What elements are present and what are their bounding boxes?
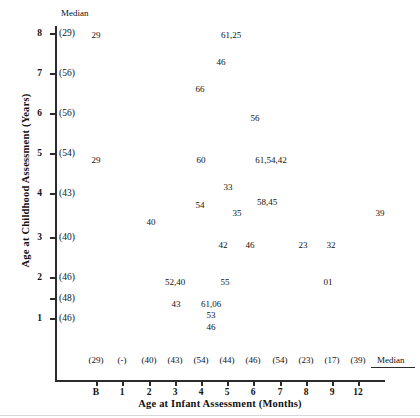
data-point-label: 60 [197,155,206,165]
y-axis-median-value: (48) [59,293,75,303]
y-axis-median-value: (40) [59,232,75,242]
x-axis-tick-label: 4 [188,387,214,397]
data-point-label: 35 [233,208,242,218]
y-axis-tick-label: 5 [28,148,42,158]
x-axis-tick [122,381,124,386]
median-column-header: Median [61,8,89,18]
x-axis-median-value: (46) [238,355,268,365]
y-axis-tick [50,318,56,320]
y-axis-tick [50,113,56,115]
y-axis-tick [50,73,56,75]
x-axis-median-value: (-) [107,355,137,365]
data-point-label: 46 [217,57,226,67]
y-axis-median-value: (43) [59,188,75,198]
y-axis-median-value: (56) [59,68,75,78]
data-point-label: 46 [246,240,255,250]
x-axis-tick [280,381,282,386]
y-axis-tick-label: 1 [28,313,42,323]
y-axis-tick [50,237,56,239]
x-axis-tick-label: 6 [240,387,266,397]
data-point-label: 43 [172,299,181,309]
x-axis-tick-label: B [83,387,109,397]
data-point-label: 33 [224,182,233,192]
x-axis-tick [358,381,360,386]
x-axis-tick [96,381,98,386]
y-axis-line [55,26,57,381]
x-axis-tick-label: 12 [345,387,371,397]
median-row-header: Median [377,355,405,365]
y-axis-tick [50,193,56,195]
x-axis-tick [253,381,255,386]
y-axis-median-value: (29) [59,28,75,38]
data-point-label: 66 [196,84,205,94]
data-point-label: 29 [92,30,101,40]
y-axis-median-value: (46) [59,313,75,323]
y-axis-tick [50,298,56,300]
x-axis-tick-label: 8 [293,387,319,397]
data-point-label: 61,25 [221,30,241,40]
data-point-label: 55 [221,277,230,287]
data-point-label: 23 [299,240,308,250]
x-axis-tick-label: 9 [319,387,345,397]
y-axis-median-value: (54) [59,148,75,158]
x-axis-tick-label: 5 [214,387,240,397]
data-point-label: 61,06 [201,299,221,309]
y-axis-tick [50,33,56,35]
y-axis-title: Age at Childhood Assessment (Years) [20,71,31,291]
data-point-label: 52,40 [165,277,185,287]
x-axis-line [55,380,385,382]
data-point-label: 42 [219,240,228,250]
data-point-label: 54 [196,200,205,210]
data-point-label: 29 [92,155,101,165]
data-point-label: 01 [324,277,333,287]
data-point-label: 56 [251,113,260,123]
x-axis-tick-label: 1 [109,387,135,397]
y-axis-median-value: (46) [59,272,75,282]
y-axis-tick-label: 7 [28,68,42,78]
y-axis-tick [50,277,56,279]
y-axis-median-value: (56) [59,108,75,118]
x-axis-tick [227,381,229,386]
data-point-label: 53 [207,310,216,320]
y-axis-tick-label: 8 [28,28,42,38]
data-point-label: 39 [376,208,385,218]
x-axis-tick [332,381,334,386]
x-axis-tick [149,381,151,386]
x-axis-tick-label: 3 [162,387,188,397]
x-axis-tick-label: 2 [136,387,162,397]
x-axis-tick [306,381,308,386]
data-point-label: 58,45 [257,197,277,207]
x-axis-median-value: (39) [343,355,373,365]
data-point-label: 40 [147,217,156,227]
y-axis-tick-label: 6 [28,108,42,118]
data-point-label: 46 [207,322,216,332]
scatter-plot-figure: Median Median Age at Childhood Assessmen… [0,0,420,418]
data-point-label: 32 [327,240,336,250]
y-axis-tick-label: 2 [28,272,42,282]
x-axis-tick [201,381,203,386]
median-column-rule [371,367,415,368]
scan-artifact-line [0,415,420,416]
y-axis-tick-label: 4 [28,188,42,198]
x-axis-title: Age at Infant Assessment (Months) [55,398,385,409]
data-point-label: 61,54,42 [255,155,287,165]
y-axis-tick-label: 3 [28,232,42,242]
x-axis-tick [175,381,177,386]
y-axis-tick [50,153,56,155]
x-axis-tick-label: 7 [267,387,293,397]
